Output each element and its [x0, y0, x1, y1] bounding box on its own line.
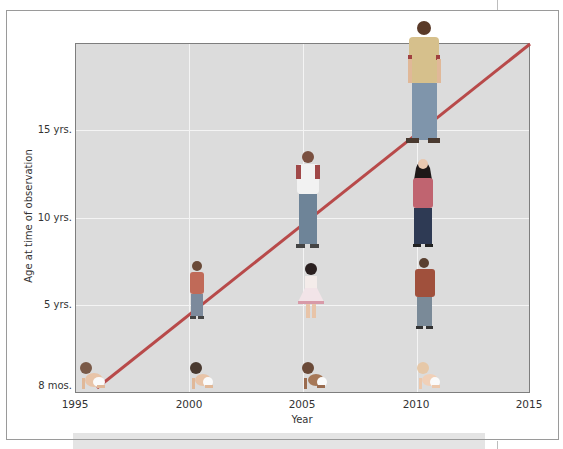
x-tick-2015: 2015	[516, 398, 543, 410]
gridline-5yrs	[76, 305, 529, 306]
y-tick-5yrs: 5 yrs.	[44, 299, 72, 310]
y-tick-15yrs: 15 yrs.	[38, 124, 72, 135]
gridline-10yrs	[76, 218, 529, 219]
gridline-15yrs	[76, 130, 529, 131]
y-tick-10yrs: 10 yrs.	[38, 212, 72, 223]
page-divider-bottom	[497, 441, 498, 449]
x-tick-1995: 1995	[62, 398, 89, 410]
x-axis-label: Year	[291, 414, 312, 425]
x-tick-2000: 2000	[176, 398, 203, 410]
y-axis-label: Age at time of observation	[23, 149, 34, 282]
y-tick-8mos: 8 mos.	[38, 380, 72, 391]
x-tick-2005: 2005	[289, 398, 316, 410]
x-tick-2010: 2010	[403, 398, 430, 410]
plot-area	[75, 43, 530, 393]
